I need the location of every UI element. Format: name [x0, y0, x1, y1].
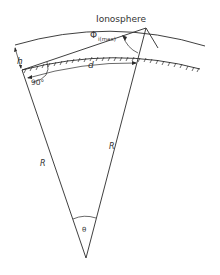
reflected-ray: [146, 28, 158, 48]
ionosphere-geometry-diagram: Ionosphere Φ i(max) h d 90° R R θ: [0, 0, 220, 275]
radius-right-line: [86, 28, 146, 258]
ionosphere-label: Ionosphere: [96, 14, 147, 24]
theta-angle-arc: [73, 216, 96, 219]
incident-ray: [22, 28, 146, 70]
radius-left-label: R: [40, 159, 46, 168]
theta-label: θ: [82, 226, 86, 234]
radius-right-label: R: [109, 142, 115, 151]
earth-surface-arc: [22, 58, 200, 70]
d-label: d: [88, 60, 94, 70]
h-label: h: [17, 56, 23, 66]
right-angle-label: 90°: [31, 78, 45, 87]
earth-hatching: [24, 57, 199, 73]
phi-subscript: i(max): [98, 36, 116, 42]
radius-left-line: [22, 70, 86, 258]
phi-label: Φ: [90, 30, 97, 40]
h-arrowhead-top: [14, 47, 17, 52]
